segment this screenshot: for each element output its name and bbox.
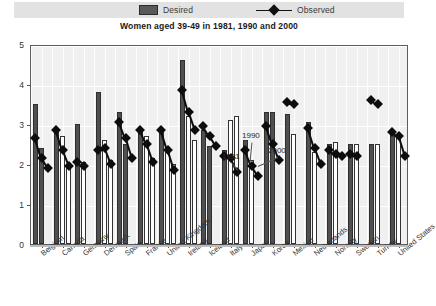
bar-desired <box>165 152 170 244</box>
annotation-1990: 1990 <box>242 131 260 140</box>
bar-desired <box>327 144 332 244</box>
plot-area-wrapper: 012345BelgiumCanadaGermanyDenmarkSpainFr… <box>0 40 418 248</box>
bar-desired <box>222 150 227 244</box>
bar-desired <box>396 134 401 244</box>
bar-desired <box>348 144 353 244</box>
plot-area <box>30 45 408 245</box>
bar-desired <box>108 160 113 244</box>
bar-desired <box>234 116 239 244</box>
bar-desired <box>270 112 275 244</box>
y-axis-tick-mark <box>27 205 31 206</box>
bar-desired <box>150 158 155 244</box>
bar-desired <box>81 162 86 244</box>
gridline-vertical <box>409 46 410 244</box>
y-axis-tick-label: 0 <box>0 240 24 250</box>
axis-baseline-strip <box>30 245 408 247</box>
chart-title: Women aged 39-49 in 1981, 1990 and 2000 <box>0 21 418 31</box>
legend-label-observed: Observed <box>297 5 335 15</box>
bar-desired <box>228 120 233 244</box>
bar-desired <box>138 128 143 244</box>
legend-label-desired: Desired <box>163 5 193 15</box>
y-axis-tick-mark <box>27 165 31 166</box>
bar-desired <box>207 146 212 244</box>
y-axis-tick-mark <box>27 125 31 126</box>
observed-line-icon <box>256 6 292 15</box>
bar-desired <box>66 164 71 244</box>
bar-desired <box>312 152 317 244</box>
bar-desired <box>249 160 254 244</box>
observed-marker-icon <box>268 4 279 15</box>
desired-swatch-icon <box>139 5 158 15</box>
y-axis-tick-label: 1 <box>0 200 24 210</box>
bar-desired <box>96 92 101 244</box>
y-axis-tick-mark <box>27 85 31 86</box>
legend-item-desired: Desired <box>139 2 193 18</box>
bar-desired <box>375 144 380 244</box>
bar-desired <box>75 124 80 244</box>
legend-item-observed: Observed <box>256 2 335 18</box>
bar-desired <box>390 130 395 244</box>
bar-desired <box>171 164 176 244</box>
annotation-1981: 1981 <box>222 152 240 161</box>
annotation-2000: 2000 <box>268 146 286 155</box>
y-axis-tick-label: 5 <box>0 40 24 50</box>
gridline-horizontal <box>31 46 407 47</box>
bar-desired <box>186 116 191 244</box>
bar-desired <box>369 144 374 244</box>
y-axis-tick-label: 2 <box>0 160 24 170</box>
bar-desired <box>291 134 296 244</box>
chart-legend: Desired Observed <box>14 2 404 18</box>
gridline-horizontal <box>31 126 407 127</box>
gridline-horizontal <box>31 86 407 87</box>
bar-desired <box>285 114 290 244</box>
y-axis-tick-label: 4 <box>0 80 24 90</box>
bar-desired <box>33 104 38 244</box>
y-axis-tick-label: 3 <box>0 120 24 130</box>
